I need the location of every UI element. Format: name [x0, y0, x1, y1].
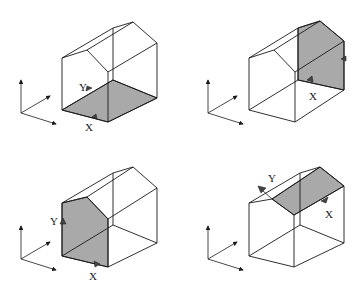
panel-top-left: Y X: [21, 22, 157, 133]
world-axes-icon: [208, 226, 243, 270]
world-axes-icon: [21, 80, 56, 124]
x-label: X: [325, 208, 333, 220]
house-face-diagram: Y X X: [0, 0, 362, 284]
y-arrow-icon: [258, 186, 266, 193]
x-label: X: [89, 270, 97, 282]
x-label: X: [309, 90, 317, 102]
panel-bottom-left: Y X: [21, 167, 157, 282]
panel-top-right: X: [208, 21, 346, 124]
shaded-roof: [272, 167, 344, 215]
shaded-floor: [62, 80, 157, 122]
y-label: Y: [50, 215, 58, 227]
y-label: Y: [79, 81, 87, 93]
y-label: Y: [268, 172, 276, 184]
world-axes-icon: [21, 226, 56, 270]
panel-bottom-right: Y X: [208, 167, 344, 270]
x-label: X: [85, 121, 93, 133]
world-axes-icon: [208, 80, 243, 124]
